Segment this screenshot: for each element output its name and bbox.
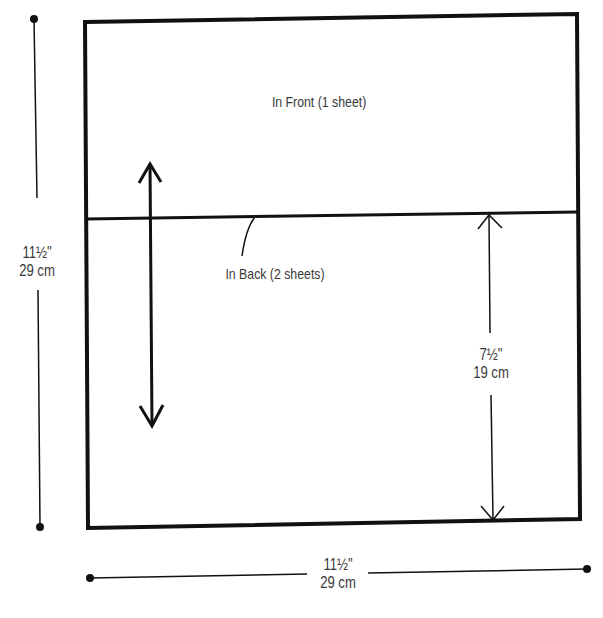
- width-imperial: 11½": [313, 556, 364, 574]
- outer-square: [85, 14, 580, 528]
- back-height-imperial: 7½": [466, 346, 517, 364]
- height-imperial: 11½": [10, 244, 64, 262]
- height-dimension-label: 11½" 29 cm: [4, 244, 70, 280]
- back-region-label: In Back (2 sheets): [218, 265, 333, 283]
- width-dimension-label: 11½" 29 cm: [307, 556, 369, 592]
- back-height-metric: 19 cm: [466, 364, 517, 382]
- divider-line: [86, 212, 578, 219]
- back-leader-line: [242, 217, 255, 256]
- width-metric: 29 cm: [313, 574, 364, 592]
- back-height-dimension-label: 7½" 19 cm: [460, 346, 522, 382]
- double-arrow-icon: [139, 164, 163, 426]
- height-metric: 29 cm: [10, 262, 64, 280]
- front-region-label: In Front (1 sheet): [272, 93, 362, 111]
